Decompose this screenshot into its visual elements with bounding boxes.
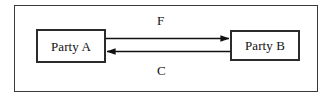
node-party-b: Party B (230, 30, 300, 61)
node-party-a-label: Party A (51, 40, 91, 53)
edge-f-label: F (157, 14, 164, 27)
edge-c-label: C (157, 64, 166, 77)
diagram-canvas: Party A Party B F C (0, 0, 332, 98)
node-party-a: Party A (36, 29, 106, 63)
node-party-b-label: Party B (245, 39, 285, 52)
